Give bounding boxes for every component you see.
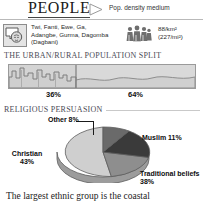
label-other: Other 8%	[48, 116, 79, 124]
label-traditional: Traditional beliefs 38%	[140, 170, 200, 187]
urban-percentage: 36%	[46, 90, 61, 99]
population-density-value: 88/km² (227/mi²)	[158, 25, 183, 41]
speech-bubble-face-icon	[3, 24, 27, 47]
people-crowd-icon	[126, 25, 152, 45]
pie-svg	[55, 121, 151, 183]
label-christian-name: Christian	[12, 150, 42, 157]
label-christian-value: 43%	[20, 158, 34, 165]
languages-list: Twi, Fanti, Ewe, Ga, Adangbe, Gurma, Dag…	[31, 23, 113, 46]
body-paragraph: The largest ethnic group is the coastal	[6, 190, 202, 202]
density-metric: 88/km²	[158, 25, 177, 32]
other-leader-line	[93, 121, 94, 135]
religion-heading: RELIGIOUS PERSUASION	[4, 105, 103, 114]
page-title: PEOPLE	[28, 0, 90, 17]
title-underline	[28, 17, 90, 18]
density-imperial: (227/mi²)	[158, 33, 183, 40]
urban-rural-bar	[8, 64, 196, 89]
religion-heading-rule	[106, 110, 200, 111]
rural-percentage: 64%	[128, 90, 143, 99]
religion-pie-chart: Other 8% Muslim 11% Christian 43% Tradit…	[0, 116, 203, 190]
header: PEOPLE Pop. density medium	[0, 0, 203, 20]
triangle-right-icon	[89, 3, 103, 16]
info-row: Twi, Fanti, Ewe, Ga, Adangbe, Gurma, Dag…	[0, 23, 203, 51]
label-muslim: Muslim 11%	[142, 134, 182, 142]
header-divider	[0, 19, 203, 20]
pop-density-badge: Pop. density medium	[109, 4, 170, 11]
label-christian: Christian 43%	[4, 150, 50, 167]
urban-rural-heading: THE URBAN/RURAL POPULATION SPLIT	[4, 51, 161, 60]
people-infographic-page: PEOPLE Pop. density medium Twi, Fanti, E…	[0, 0, 203, 205]
